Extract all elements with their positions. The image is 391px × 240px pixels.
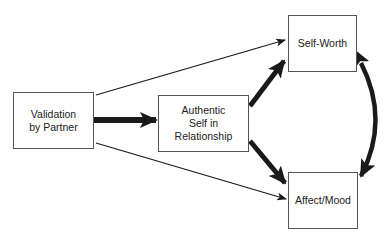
node-self-worth: Self-Worth xyxy=(288,15,357,72)
node-label: Self-Worth xyxy=(298,37,347,50)
node-validation-by-partner: Validation by Partner xyxy=(13,92,94,149)
node-authentic-self: Authentic Self in Relationship xyxy=(158,95,249,152)
node-label: Authentic Self in Relationship xyxy=(175,104,233,143)
arrow-authentic-to-affect xyxy=(250,141,285,183)
arrow-authentic-to-self-worth xyxy=(250,61,284,106)
arrow-validation-to-self-worth xyxy=(96,40,285,95)
node-label: Validation by Partner xyxy=(29,108,77,134)
node-label: Affect/Mood xyxy=(295,194,351,207)
arrow-self-worth-affect-bidirectional xyxy=(361,63,376,176)
node-affect-mood: Affect/Mood xyxy=(288,172,358,229)
